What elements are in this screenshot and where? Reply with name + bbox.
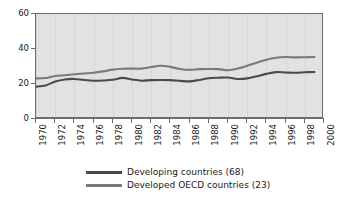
chart-legend: Developing countries (68) Developed OECD… xyxy=(0,166,349,192)
y-axis-line xyxy=(35,13,36,119)
x-axis-label: 1998 xyxy=(307,124,316,146)
y-axis-label: 40 xyxy=(0,44,29,53)
x-axis-tick xyxy=(112,119,113,123)
x-axis-label: 1990 xyxy=(231,124,240,146)
legend-label: Developing countries (68) xyxy=(127,168,244,177)
y-axis-label: 20 xyxy=(0,79,29,88)
x-axis-tick xyxy=(304,119,305,123)
x-axis-tick xyxy=(189,119,190,123)
legend-swatch-line xyxy=(86,184,122,187)
x-axis-tick xyxy=(73,119,74,123)
legend-swatch-line xyxy=(86,171,122,174)
x-axis-label: 2000 xyxy=(327,124,336,146)
x-axis-label: 1986 xyxy=(192,124,201,146)
x-axis-tick xyxy=(35,119,36,123)
x-axis-label: 1984 xyxy=(173,124,182,146)
x-axis-tick xyxy=(227,119,228,123)
x-axis-label: 1992 xyxy=(250,124,259,146)
x-axis-tick xyxy=(285,119,286,123)
y-axis-tick xyxy=(31,13,35,14)
x-axis-label: 1988 xyxy=(211,124,220,146)
x-axis-label: 1982 xyxy=(154,124,163,146)
x-axis-label: 1972 xyxy=(58,124,67,146)
y-axis-tick xyxy=(31,83,35,84)
x-axis-tick xyxy=(208,119,209,123)
legend-item-developed-oecd: Developed OECD countries (23) xyxy=(0,179,349,192)
x-axis-line xyxy=(35,118,324,119)
y-axis-label: 0 xyxy=(0,114,29,123)
x-axis-tick xyxy=(93,119,94,123)
x-axis-label: 1996 xyxy=(288,124,297,146)
x-axis-tick xyxy=(323,119,324,123)
x-axis-label: 1994 xyxy=(269,124,278,146)
x-axis-tick xyxy=(169,119,170,123)
x-axis-label: 1974 xyxy=(77,124,86,146)
y-axis-tick xyxy=(31,48,35,49)
x-axis-tick xyxy=(131,119,132,123)
series-line xyxy=(36,57,314,78)
series-lines xyxy=(36,14,323,118)
x-axis-tick xyxy=(265,119,266,123)
x-axis-label: 1970 xyxy=(39,124,48,146)
line-chart-figure: 0204060 19701972197419761978198019821984… xyxy=(0,0,349,203)
x-axis-tick xyxy=(150,119,151,123)
y-axis-label: 60 xyxy=(0,9,29,18)
x-axis-tick xyxy=(54,119,55,123)
x-axis-tick xyxy=(246,119,247,123)
legend-item-developing: Developing countries (68) xyxy=(0,166,349,179)
x-axis-label: 1980 xyxy=(135,124,144,146)
legend-label: Developed OECD countries (23) xyxy=(127,181,270,190)
plot-area xyxy=(35,13,323,118)
x-axis-label: 1978 xyxy=(115,124,124,146)
x-axis-label: 1976 xyxy=(96,124,105,146)
